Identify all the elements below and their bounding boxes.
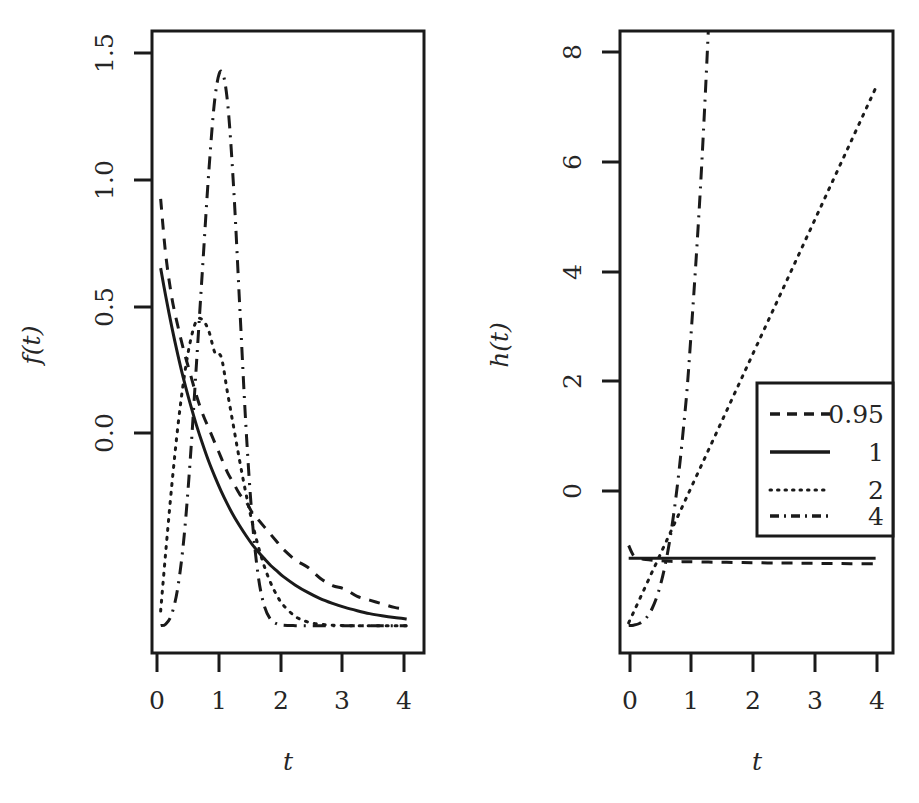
left-y-ticklabel-0p0: 0.0 (90, 413, 119, 453)
left-x-ticklabel-3: 3 (334, 686, 350, 715)
right-x-axis-title: t (752, 747, 763, 776)
figure-canvas: 1.5 1.0 0.5 0.0 f(t) 0 1 2 3 4 t (0, 0, 919, 803)
legend-label-1: 1 (868, 438, 884, 467)
right-y-ticklabel-0: 0 (558, 483, 587, 499)
legend-label-2: 2 (868, 476, 884, 505)
right-x-ticklabel-4: 4 (869, 686, 885, 715)
left-series-0p95 (161, 199, 407, 609)
left-series-1 (161, 268, 407, 619)
right-y-ticklabel-6: 6 (558, 154, 587, 170)
left-series-group (161, 71, 407, 626)
left-y-ticks (134, 53, 152, 433)
legend-label-0p95: 0.95 (828, 400, 884, 429)
right-x-ticklabel-1: 1 (683, 686, 699, 715)
legend[interactable]: 0.95 1 2 4 (757, 383, 893, 536)
right-series-4 (629, 0, 727, 625)
plot-svg: 1.5 1.0 0.5 0.0 f(t) 0 1 2 3 4 t (0, 0, 919, 803)
left-plot-box (152, 31, 424, 653)
legend-label-4: 4 (868, 502, 884, 531)
left-y-ticklabel-1p5: 1.5 (90, 33, 119, 73)
left-x-ticklabel-4: 4 (396, 686, 412, 715)
left-y-axis-title: f(t) (17, 326, 46, 367)
right-x-ticklabel-3: 3 (807, 686, 823, 715)
left-density-panel: 1.5 1.0 0.5 0.0 f(t) 0 1 2 3 4 t (17, 31, 424, 776)
right-y-axis-title: h(t) (485, 322, 514, 368)
right-y-ticklabel-4: 4 (558, 264, 587, 280)
right-x-ticklabel-0: 0 (622, 686, 638, 715)
left-x-ticklabel-2: 2 (273, 686, 289, 715)
left-y-ticklabel-0p5: 0.5 (90, 287, 119, 327)
left-x-ticklabel-0: 0 (149, 686, 165, 715)
left-x-ticks (157, 653, 404, 672)
left-x-axis-title: t (283, 747, 294, 776)
left-series-4 (161, 71, 407, 626)
right-hazard-panel: 8 6 4 2 0 h(t) 0 1 2 3 4 t (485, 0, 893, 776)
right-x-ticklabel-2: 2 (745, 686, 761, 715)
left-y-ticklabel-1p0: 1.0 (90, 160, 119, 200)
left-x-ticklabel-1: 1 (211, 686, 227, 715)
right-y-ticks (602, 52, 620, 491)
right-y-ticklabel-2: 2 (558, 373, 587, 389)
right-series-0p95 (629, 546, 876, 564)
right-x-ticks (630, 653, 877, 672)
right-y-ticklabel-8: 8 (558, 44, 587, 60)
right-series-2 (629, 88, 876, 623)
